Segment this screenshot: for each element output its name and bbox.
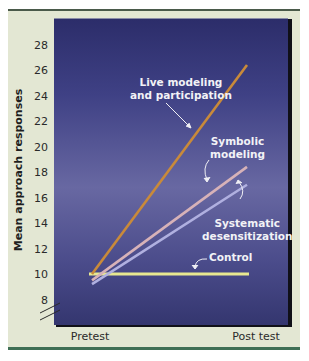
label-line: and participation	[130, 89, 232, 102]
label-systematic-desensitization: Systematic desensitization	[202, 217, 292, 243]
label-line: modeling	[210, 148, 265, 161]
label-symbolic-modeling: Symbolic modeling	[210, 135, 265, 161]
label-control: Control	[209, 251, 252, 264]
chart-lines	[0, 0, 309, 361]
label-line: Symbolic	[210, 135, 265, 148]
label-line: Live modeling	[130, 76, 232, 89]
axis-break-icon	[40, 303, 60, 320]
label-live-modeling: Live modeling and participation	[130, 76, 232, 102]
label-line: desensitization	[202, 230, 292, 243]
annotation-arrows	[166, 103, 243, 269]
label-line: Systematic	[202, 217, 292, 230]
